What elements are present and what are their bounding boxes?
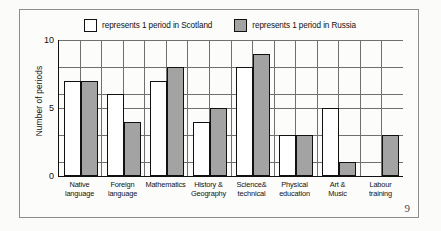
x-axis-label-2: Foreignlanguage xyxy=(101,180,144,199)
bar-group xyxy=(188,40,231,176)
bar-group xyxy=(360,40,403,176)
white-square-icon xyxy=(84,19,97,32)
x-axis-label-line: language xyxy=(58,189,101,198)
page-number: 9 xyxy=(405,202,411,214)
x-axis-label-line: Foreign xyxy=(101,180,144,189)
bar-group xyxy=(59,40,102,176)
bar-scotland xyxy=(150,81,167,176)
x-axis-label-line: technical xyxy=(230,189,273,198)
x-axis-category-labels: NativelanguageForeignlanguageMathematics… xyxy=(58,180,402,199)
x-axis-label-1: Nativelanguage xyxy=(58,180,101,199)
x-axis-label-line: Music xyxy=(316,189,359,198)
bar-scotland xyxy=(193,122,210,176)
bar-russia xyxy=(210,108,227,176)
y-axis-tick-labels: 10 5 0 xyxy=(32,10,54,217)
bar-russia xyxy=(81,81,98,176)
x-axis-label-line: training xyxy=(359,189,402,198)
y-tick-5: 5 xyxy=(34,104,54,113)
x-axis-label-line: Science& xyxy=(230,180,273,189)
x-axis-label-8: Labourtraining xyxy=(359,180,402,199)
bar-group xyxy=(274,40,317,176)
legend-entry-russia: represents 1 period in Russia xyxy=(234,19,356,32)
x-axis-label-6: Physicaleducation xyxy=(273,180,316,199)
y-tick-0: 0 xyxy=(34,172,54,181)
bar-group xyxy=(102,40,145,176)
x-axis-label-line: Labour xyxy=(359,180,402,189)
bar-scotland xyxy=(107,94,124,176)
chart-legend: represents 1 period in Scotland represen… xyxy=(20,13,420,37)
bar-group xyxy=(317,40,360,176)
bar-groups xyxy=(59,40,403,176)
bar-russia xyxy=(296,135,313,176)
bar-group xyxy=(231,40,274,176)
bar-russia xyxy=(167,67,184,176)
bar-group xyxy=(145,40,188,176)
x-axis-label-line: Art & xyxy=(316,180,359,189)
x-axis-label-line: History & xyxy=(187,180,230,189)
legend-label-scotland: represents 1 period in Scotland xyxy=(102,21,212,30)
bar-russia xyxy=(253,54,270,176)
bar-scotland xyxy=(64,81,81,176)
bar-russia xyxy=(382,135,399,176)
bar-scotland xyxy=(322,108,339,176)
plot-area xyxy=(58,40,403,177)
x-axis-label-4: History &Geography xyxy=(187,180,230,199)
x-axis-label-line: Geography xyxy=(187,189,230,198)
figure-frame: represents 1 period in Scotland represen… xyxy=(19,9,419,218)
x-axis-label-line: Mathematics xyxy=(144,180,187,189)
x-axis-label-line: Physical xyxy=(273,180,316,189)
x-axis-label-7: Art &Music xyxy=(316,180,359,199)
legend-entry-scotland: represents 1 period in Scotland xyxy=(84,19,212,32)
x-axis-label-line: education xyxy=(273,189,316,198)
x-axis-label-5: Science&technical xyxy=(230,180,273,199)
bar-scotland xyxy=(236,67,253,176)
x-axis-label-line: language xyxy=(101,189,144,198)
y-tick-10: 10 xyxy=(34,36,54,45)
bar-scotland xyxy=(279,135,296,176)
bar-russia xyxy=(339,162,356,176)
x-axis-label-line: Native xyxy=(58,180,101,189)
gray-square-icon xyxy=(234,19,247,32)
legend-label-russia: represents 1 period in Russia xyxy=(252,21,356,30)
x-axis-label-3: Mathematics xyxy=(144,180,187,199)
bar-russia xyxy=(124,122,141,176)
